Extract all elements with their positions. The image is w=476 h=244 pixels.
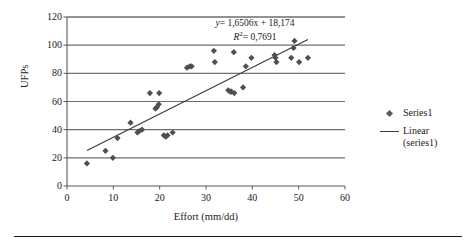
legend-item-linear-trend[interactable]: Linear (series1) [378, 125, 473, 149]
data-point [296, 59, 302, 65]
legend-label-series1: Series1 [400, 107, 432, 119]
x-tick-label: 10 [108, 193, 118, 203]
bottom-divider [14, 236, 462, 237]
data-point [248, 55, 254, 61]
scatter-chart: 020406080100120 0102030405060 UFPs Effor… [0, 0, 360, 232]
x-tick-label: 40 [247, 193, 257, 203]
r-squared-body: = 0,7691 [243, 32, 277, 42]
line-sample-icon [378, 125, 400, 137]
data-point [170, 129, 176, 135]
chart-legend: Series1 Linear (series1) [378, 107, 473, 155]
y-tick-label: 0 [36, 181, 62, 191]
x-tick-label: 60 [340, 193, 350, 203]
data-point [102, 148, 108, 154]
x-tick-label: 0 [65, 193, 70, 203]
data-point [211, 48, 217, 54]
data-point [273, 59, 279, 65]
x-tick-label: 20 [155, 193, 165, 203]
data-point [212, 59, 218, 65]
data-point [147, 90, 153, 96]
equation-body: = 1,6506x + 18,174 [220, 18, 295, 28]
x-tick-label: 50 [294, 193, 304, 203]
y-tick-label: 60 [36, 97, 62, 107]
y-tick-label: 120 [36, 12, 62, 22]
legend-item-series1[interactable]: Series1 [378, 107, 473, 119]
y-tick-label: 80 [36, 68, 62, 78]
data-point [110, 155, 116, 161]
y-tick-label: 20 [36, 153, 62, 163]
y-axis-title: UFPs [19, 65, 30, 88]
data-point [156, 90, 162, 96]
data-point [240, 84, 246, 90]
data-point [305, 55, 311, 61]
data-point [127, 120, 133, 126]
data-points-group [84, 38, 311, 167]
regression-annotation: y= 1,6506x + 18,174 R2= 0,7691 [185, 18, 325, 44]
data-point [84, 160, 90, 166]
regression-equation: y= 1,6506x + 18,174 [185, 18, 325, 30]
legend-label-linear-line2: (series1) [403, 137, 437, 148]
y-tick-label: 40 [36, 125, 62, 135]
legend-label-linear: Linear (series1) [400, 125, 437, 149]
y-tick-label: 100 [36, 40, 62, 50]
data-point [243, 63, 249, 69]
data-point [231, 49, 237, 55]
diamond-marker-icon [378, 107, 400, 119]
legend-label-linear-line1: Linear [403, 125, 429, 136]
r-squared-value: R2= 0,7691 [185, 30, 325, 44]
x-axis-title: Effort (mm/dd) [67, 211, 345, 222]
data-point [288, 55, 294, 61]
figure-container: 020406080100120 0102030405060 UFPs Effor… [0, 0, 476, 244]
x-tick-label: 30 [201, 193, 211, 203]
